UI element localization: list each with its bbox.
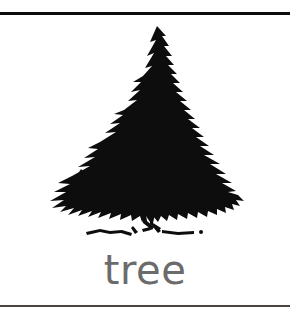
word-label: tree [0,248,290,292]
top-divider-rule [0,12,290,15]
pine-tree-icon [0,16,290,244]
tree-illustration [0,16,290,244]
picture-word-flashcard: tree [0,0,290,314]
bottom-divider-rule [0,305,290,307]
